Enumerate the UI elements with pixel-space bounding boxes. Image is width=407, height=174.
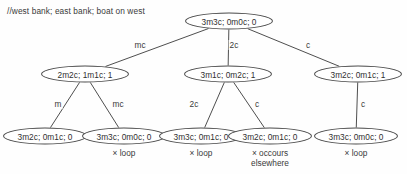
node-annotation: × loop: [345, 148, 368, 159]
tree-node[interactable]: 2m2c; 1m1c; 1: [41, 66, 129, 83]
tree-edge: [356, 82, 357, 127]
tree-edge: [248, 29, 340, 67]
tree-node[interactable]: 3m3c; 0m0c; 0: [82, 128, 166, 145]
tree-node-label: 3m2c; 0m1c; 1: [330, 69, 385, 79]
tree-node[interactable]: 3m2c; 0m1c; 0: [3, 128, 87, 145]
tree-node[interactable]: 3m3c; 0m0c; 0: [314, 128, 398, 145]
edge-label: 2c: [189, 99, 200, 109]
tree-node-label: 3m3c; 0m0c; 0: [328, 131, 383, 141]
tree-node-label: 3m1c; 0m2c; 1: [200, 69, 255, 79]
tree-node-label: 3m3c; 0m1c; 0: [173, 131, 228, 141]
tree-node-label: 3m3c; 0m0c; 0: [96, 131, 151, 141]
tree-node-label: 3m2c; 0m1c; 0: [17, 131, 72, 141]
diagram-canvas: //west bank; east bank; boat on west 3m3…: [0, 0, 407, 174]
node-annotation: × loop: [190, 148, 213, 159]
node-annotation: × occourselsewhere: [251, 148, 289, 169]
edge-label: mc: [111, 99, 124, 109]
edge-label: c: [360, 99, 366, 109]
edge-label: c: [254, 99, 260, 109]
node-annotation: × loop: [113, 148, 136, 159]
edge-label: mc: [133, 40, 146, 50]
tree-node[interactable]: 3m2c; 0m1c; 0: [228, 128, 312, 145]
edge-label: m: [54, 99, 63, 109]
tree-node-label: 3m3c; 0m0c; 0: [201, 16, 256, 26]
tree-node[interactable]: 3m3c; 0m0c; 0: [185, 13, 273, 30]
edge-label: 2c: [229, 40, 240, 50]
edge-label: c: [305, 40, 311, 50]
tree-node-label: 3m2c; 0m1c; 0: [242, 131, 297, 141]
tree-node-label: 2m2c; 1m1c; 1: [57, 69, 112, 79]
tree-edge: [205, 82, 225, 127]
tree-edge: [105, 29, 208, 67]
tree-node[interactable]: 3m2c; 0m1c; 1: [314, 66, 402, 83]
tree-node[interactable]: 3m1c; 0m2c; 1: [184, 66, 272, 83]
